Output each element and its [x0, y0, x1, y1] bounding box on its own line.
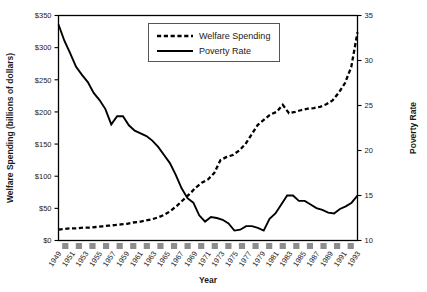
x-tick-block-1980: [266, 243, 272, 249]
x-tick-block-1964: [157, 243, 163, 249]
x-axis-labels: 1949195119531955195719591961196319651967…: [46, 249, 362, 268]
right-tick-label-1: 15: [365, 191, 373, 200]
left-tick-label-3: $150: [35, 140, 52, 149]
right-axis: 101520253035: [358, 11, 373, 245]
x-label-1965: 1965: [155, 249, 172, 268]
x-tick-block-1990: [334, 243, 340, 249]
x-label-1955: 1955: [87, 249, 104, 268]
x-tick-block-1958: [117, 243, 123, 249]
x-label-text-1983: 1983: [277, 249, 294, 268]
x-tick-block-1972: [212, 243, 218, 249]
x-label-1959: 1959: [114, 249, 131, 268]
x-axis-title: Year: [199, 275, 218, 285]
x-tick-block-1992: [348, 243, 354, 249]
x-label-text-1961: 1961: [128, 249, 145, 268]
right-tick-label-4: 30: [365, 56, 373, 65]
right-tick-label-3: 25: [365, 101, 373, 110]
x-tick-block-1984: [293, 243, 299, 249]
x-tick-block-1970: [198, 243, 204, 249]
x-tick-block-1974: [225, 243, 231, 249]
x-tick-block-1982: [280, 243, 286, 249]
x-label-text-1957: 1957: [101, 249, 118, 268]
y-axis-title: Welfare Spending (billions of dollars): [5, 53, 15, 203]
x-label-text-1971: 1971: [196, 249, 213, 268]
x-tick-block-1952: [76, 243, 82, 249]
right-tick-label-5: 35: [365, 11, 373, 20]
x-label-1987: 1987: [305, 249, 322, 268]
right-tick-label-0: 10: [365, 236, 373, 245]
x-tick-block-1978: [252, 243, 258, 249]
left-tick-label-2: $100: [35, 172, 52, 181]
x-label-1993: 1993: [345, 249, 362, 268]
x-label-1961: 1961: [128, 249, 145, 268]
x-label-1967: 1967: [169, 249, 186, 268]
chart-container: $0$50$100$150$200$250$300$350 1015202530…: [0, 0, 427, 292]
x-label-1985: 1985: [291, 249, 308, 268]
legend-label-poverty-rate: Poverty Rate: [199, 46, 251, 56]
x-label-text-1973: 1973: [209, 249, 226, 268]
x-label-1969: 1969: [182, 249, 199, 268]
y2-axis-title: Poverty Rate: [408, 102, 418, 154]
x-label-1977: 1977: [237, 249, 254, 268]
x-label-text-1949: 1949: [46, 249, 63, 268]
legend-label-welfare-spending: Welfare Spending: [199, 31, 270, 41]
welfare-poverty-line-chart: $0$50$100$150$200$250$300$350 1015202530…: [0, 0, 427, 292]
x-label-text-1981: 1981: [264, 249, 281, 268]
x-label-text-1989: 1989: [318, 249, 335, 268]
x-label-text-1987: 1987: [305, 249, 322, 268]
left-tick-label-0: $0: [43, 236, 51, 245]
x-label-text-1985: 1985: [291, 249, 308, 268]
x-label-1949: 1949: [46, 249, 63, 268]
left-tick-label-4: $200: [35, 108, 52, 117]
x-label-text-1969: 1969: [182, 249, 199, 268]
x-label-1983: 1983: [277, 249, 294, 268]
x-label-text-1951: 1951: [60, 249, 77, 268]
x-label-1953: 1953: [74, 249, 91, 268]
left-tick-label-1: $50: [39, 204, 52, 213]
x-label-1957: 1957: [101, 249, 118, 268]
x-label-1973: 1973: [209, 249, 226, 268]
x-label-text-1977: 1977: [237, 249, 254, 268]
x-tick-block-1954: [89, 243, 95, 249]
left-tick-label-6: $300: [35, 43, 52, 52]
x-label-text-1975: 1975: [223, 249, 240, 268]
x-label-1991: 1991: [332, 249, 349, 268]
left-tick-label-5: $250: [35, 76, 52, 85]
x-label-1981: 1981: [264, 249, 281, 268]
right-tick-label-2: 20: [365, 146, 373, 155]
x-label-1951: 1951: [60, 249, 77, 268]
x-label-1963: 1963: [142, 249, 159, 268]
x-tick-block-1988: [320, 243, 326, 249]
x-label-text-1955: 1955: [87, 249, 104, 268]
x-label-1989: 1989: [318, 249, 335, 268]
x-label-text-1965: 1965: [155, 249, 172, 268]
x-label-1971: 1971: [196, 249, 213, 268]
legend: Welfare Spending Poverty Rate: [149, 24, 280, 62]
x-tick-block-1968: [185, 243, 191, 249]
x-label-1979: 1979: [250, 249, 267, 268]
x-label-text-1979: 1979: [250, 249, 267, 268]
x-tick-block-1960: [130, 243, 136, 249]
x-label-text-1993: 1993: [345, 249, 362, 268]
x-label-text-1953: 1953: [74, 249, 91, 268]
x-tick-block-1956: [103, 243, 109, 249]
x-tick-block-1950: [62, 243, 68, 249]
x-label-text-1991: 1991: [332, 249, 349, 268]
x-tick-block-1986: [307, 243, 313, 249]
x-tick-block-1976: [239, 243, 245, 249]
left-tick-label-7: $350: [35, 11, 52, 20]
left-axis: $0$50$100$150$200$250$300$350: [35, 11, 59, 245]
x-label-text-1967: 1967: [169, 249, 186, 268]
x-axis-tick-blocks: [62, 243, 354, 249]
x-label-text-1963: 1963: [142, 249, 159, 268]
x-tick-block-1962: [144, 243, 150, 249]
x-label-1975: 1975: [223, 249, 240, 268]
x-label-text-1959: 1959: [114, 249, 131, 268]
x-tick-block-1966: [171, 243, 177, 249]
